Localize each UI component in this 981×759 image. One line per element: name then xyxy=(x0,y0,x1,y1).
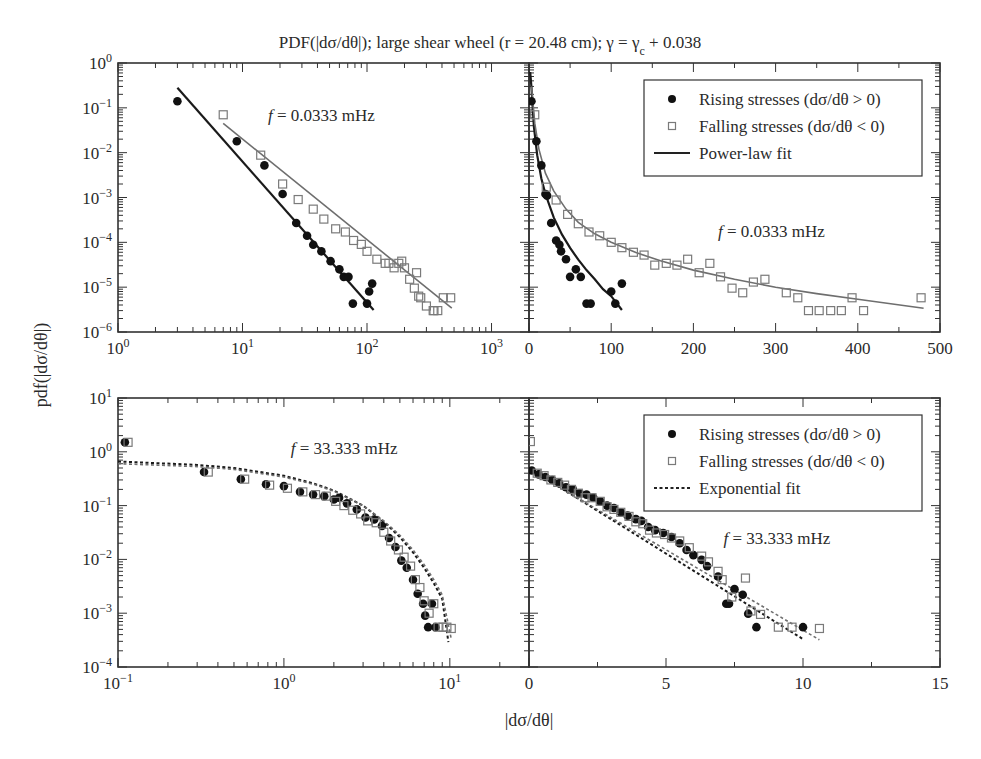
panel-top-right: 0100200300400500f = 0.0333 mHzRising str… xyxy=(525,63,953,358)
data-point xyxy=(219,111,227,119)
data-point xyxy=(566,273,575,282)
y-tick-label: 10−2 xyxy=(82,141,112,163)
series-falling xyxy=(219,111,454,315)
data-point xyxy=(296,488,305,497)
x-tick-label: 101 xyxy=(438,671,461,693)
data-point xyxy=(738,590,747,599)
data-point xyxy=(730,585,739,594)
x-tick-label: 0 xyxy=(525,674,534,693)
data-point xyxy=(557,247,566,256)
legend-circle-icon xyxy=(668,430,676,438)
series-falling xyxy=(124,438,455,632)
x-tick-label: 100 xyxy=(107,336,130,358)
data-point xyxy=(428,599,437,608)
data-point xyxy=(292,219,301,228)
chart-title: PDF(|dσ/dθ|); large shear wheel (r = 20.… xyxy=(279,33,701,58)
y-tick-label: 10−3 xyxy=(82,601,112,623)
data-point xyxy=(611,299,620,308)
legend-label: Falling stresses (dσ/dθ < 0) xyxy=(699,117,885,136)
data-point xyxy=(279,180,287,188)
legend-label: Rising stresses (dσ/dθ > 0) xyxy=(699,90,881,109)
data-point xyxy=(294,196,302,204)
data-point xyxy=(373,255,381,263)
data-point xyxy=(385,534,394,543)
tick-labels: 0100200300400500 xyxy=(525,339,953,358)
data-point xyxy=(363,299,372,308)
data-point xyxy=(917,294,925,302)
data-point xyxy=(410,284,418,292)
x-tick-label: 200 xyxy=(681,339,707,358)
data-point xyxy=(804,307,812,315)
x-tick-label: 102 xyxy=(356,336,379,358)
x-tick-label: 500 xyxy=(927,339,953,358)
series-rising xyxy=(527,97,626,308)
legend-label: Power-law fit xyxy=(699,144,792,163)
legend-circle-icon xyxy=(668,95,676,103)
tick-labels: 051015 xyxy=(525,674,949,693)
frequency-annotation: f = 33.333 mHz xyxy=(724,529,831,548)
data-point xyxy=(365,287,374,296)
data-point xyxy=(651,261,659,269)
data-point xyxy=(543,191,552,200)
title-text: PDF(|dσ/dθ|); large shear wheel (r = 20.… xyxy=(279,33,701,58)
data-point xyxy=(368,279,377,288)
data-point xyxy=(684,255,692,263)
panel-bottom-left: 10−110010110110010−110−210−310−4f = 33.3… xyxy=(82,386,529,693)
data-point xyxy=(815,624,823,632)
y-axis-label: pdf(|dσ/dθ|) xyxy=(31,323,52,408)
legend-label: Falling stresses (dσ/dθ < 0) xyxy=(699,452,885,471)
frequency-annotation: f = 33.333 mHz xyxy=(291,439,398,458)
data-point xyxy=(278,190,287,199)
y-tick-label: 10−3 xyxy=(82,186,112,208)
data-point xyxy=(326,257,335,266)
chart-canvas: PDF(|dσ/dθ|); large shear wheel (r = 20.… xyxy=(0,0,981,759)
data-point xyxy=(341,228,349,236)
data-point xyxy=(309,205,317,213)
series-rising xyxy=(121,438,440,631)
x-tick-label: 0 xyxy=(525,339,534,358)
data-point xyxy=(121,438,130,447)
data-point xyxy=(607,287,616,296)
data-point xyxy=(741,574,749,582)
x-tick-label: 100 xyxy=(598,339,624,358)
data-point xyxy=(752,623,761,632)
tick-labels: 10010110210310010−110−210−310−410−510−6 xyxy=(82,51,503,358)
data-point xyxy=(860,307,868,315)
data-point xyxy=(761,275,769,283)
data-point xyxy=(728,284,736,292)
data-point xyxy=(537,161,546,170)
data-point xyxy=(309,490,318,499)
data-point xyxy=(317,247,326,256)
data-point xyxy=(332,225,340,233)
legend-label: Rising stresses (dσ/dθ > 0) xyxy=(699,425,881,444)
data-point xyxy=(526,438,534,446)
data-point xyxy=(586,299,595,308)
data-point xyxy=(349,299,358,308)
x-tick-label: 300 xyxy=(763,339,789,358)
data-point xyxy=(576,273,585,282)
series-rising xyxy=(173,97,376,308)
data-point xyxy=(344,273,353,282)
y-tick-label: 10−2 xyxy=(82,547,112,569)
data-point xyxy=(173,97,182,106)
legend: Rising stresses (dσ/dθ > 0)Falling stres… xyxy=(644,80,922,176)
data-point xyxy=(378,522,387,531)
panel-top-left: 10010110210310010−110−210−310−410−510−6f… xyxy=(82,51,529,358)
data-point xyxy=(794,294,802,302)
y-tick-label: 100 xyxy=(89,51,112,73)
x-tick-label: 103 xyxy=(480,336,503,358)
data-point xyxy=(350,236,358,244)
data-point xyxy=(409,575,418,584)
data-point xyxy=(675,539,684,548)
data-point xyxy=(309,241,318,250)
data-point xyxy=(706,259,714,267)
panel-bottom-right: 051015f = 33.333 mHzRising stresses (dσ/… xyxy=(525,398,949,693)
data-point xyxy=(233,137,242,146)
data-point xyxy=(739,289,747,297)
x-tick-label: 400 xyxy=(845,339,871,358)
panels: 10010110210310010−110−210−310−410−510−6f… xyxy=(82,51,953,693)
data-point xyxy=(532,137,541,146)
data-point xyxy=(335,265,344,274)
x-tick-label: 100 xyxy=(272,671,295,693)
legend-label: Exponential fit xyxy=(699,479,801,498)
